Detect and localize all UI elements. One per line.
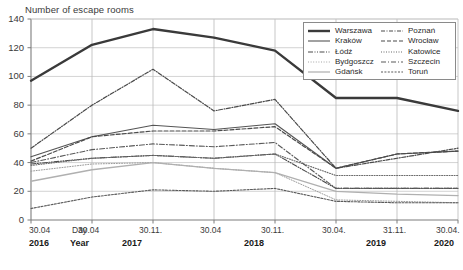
legend-item-katowice[interactable]: Katowice bbox=[380, 47, 453, 57]
y-tick-label-80: 80 bbox=[0, 99, 24, 110]
legend-line-wroclaw bbox=[380, 37, 404, 45]
x-tick-day-2: 30.11. bbox=[139, 225, 162, 235]
legend-label-poznan: Poznań bbox=[408, 27, 435, 35]
y-tick-label-40: 40 bbox=[0, 157, 24, 168]
legend-label-katowice: Katowice bbox=[408, 48, 440, 56]
x-tick-year-2017: 2017 bbox=[122, 238, 142, 248]
legend-column-2: Poznań Wrocław Katowice Szczecin Toruń bbox=[380, 26, 453, 77]
y-tick-label-140: 140 bbox=[0, 13, 24, 24]
series-line-szczecin bbox=[31, 142, 458, 188]
legend-label-wroclaw: Wrocław bbox=[408, 37, 439, 45]
x-tick-day-7: 30.04. bbox=[436, 225, 460, 235]
legend-item-torun[interactable]: Toruń bbox=[380, 67, 453, 77]
legend-item-gdansk[interactable]: Gdańsk bbox=[307, 67, 380, 77]
x-tick-day-6: 31.11. bbox=[383, 225, 406, 235]
legend-label-warszawa: Warszawa bbox=[335, 27, 372, 35]
y-tick-label-60: 60 bbox=[0, 128, 24, 139]
legend-line-torun bbox=[380, 68, 404, 76]
series-line-pozna bbox=[31, 69, 458, 168]
legend-line-szczecin bbox=[380, 58, 404, 66]
legend-line-gdansk bbox=[307, 68, 331, 76]
x-tick-day-3: 30.04 bbox=[200, 225, 221, 235]
x-axis-row-label-day: Day bbox=[72, 225, 87, 235]
series-line-katowice bbox=[31, 154, 458, 176]
legend-label-gdansk: Gdańsk bbox=[335, 68, 363, 76]
legend-label-szczecin: Szczecin bbox=[408, 58, 440, 66]
y-tick-label-100: 100 bbox=[0, 70, 24, 81]
y-tick-label-0: 0 bbox=[0, 214, 24, 225]
legend-line-katowice bbox=[380, 48, 404, 56]
legend-item-wroclaw[interactable]: Wrocław bbox=[380, 36, 453, 46]
series-line-gdask bbox=[31, 163, 458, 196]
legend-line-warszawa bbox=[307, 27, 331, 35]
escape-rooms-line-chart: Number of escape rooms Warszawa Kraków Ł… bbox=[0, 0, 463, 270]
series-line-wrocaw bbox=[31, 127, 458, 169]
legend-item-szczecin[interactable]: Szczecin bbox=[380, 57, 453, 67]
y-tick-label-20: 20 bbox=[0, 185, 24, 196]
legend-line-poznan bbox=[380, 27, 404, 35]
x-tick-day-5: 30.04. bbox=[322, 225, 346, 235]
legend-item-lodz[interactable]: Łódź bbox=[307, 47, 380, 57]
x-tick-year-2020: 2020 bbox=[434, 238, 454, 248]
x-tick-year-2018: 2018 bbox=[244, 238, 264, 248]
legend-line-krakow bbox=[307, 37, 331, 45]
legend-column-1: Warszawa Kraków Łódź Bydgoszcz Gdańsk bbox=[307, 26, 380, 77]
legend-item-krakow[interactable]: Kraków bbox=[307, 36, 380, 46]
series-line-krakw bbox=[31, 124, 458, 169]
legend-label-bydgoszcz: Bydgoszcz bbox=[335, 58, 374, 66]
legend-label-krakow: Kraków bbox=[335, 37, 362, 45]
legend-item-poznan[interactable]: Poznań bbox=[380, 26, 453, 36]
x-tick-day-0: 30.04 bbox=[29, 225, 50, 235]
legend-item-warszawa[interactable]: Warszawa bbox=[307, 26, 380, 36]
legend-line-lodz bbox=[307, 48, 331, 56]
x-tick-day-4: 30.11. bbox=[261, 225, 284, 235]
x-axis-row-label-year: Year bbox=[70, 238, 89, 248]
legend-label-torun: Toruń bbox=[408, 68, 428, 76]
legend-item-bydgoszcz[interactable]: Bydgoszcz bbox=[307, 57, 380, 67]
legend-label-lodz: Łódź bbox=[335, 48, 352, 56]
x-tick-year-2016: 2016 bbox=[29, 238, 49, 248]
x-tick-year-2019: 2019 bbox=[366, 238, 386, 248]
chart-legend: Warszawa Kraków Łódź Bydgoszcz Gdańsk bbox=[303, 22, 456, 80]
legend-line-bydgoszcz bbox=[307, 58, 331, 66]
y-tick-label-120: 120 bbox=[0, 42, 24, 53]
